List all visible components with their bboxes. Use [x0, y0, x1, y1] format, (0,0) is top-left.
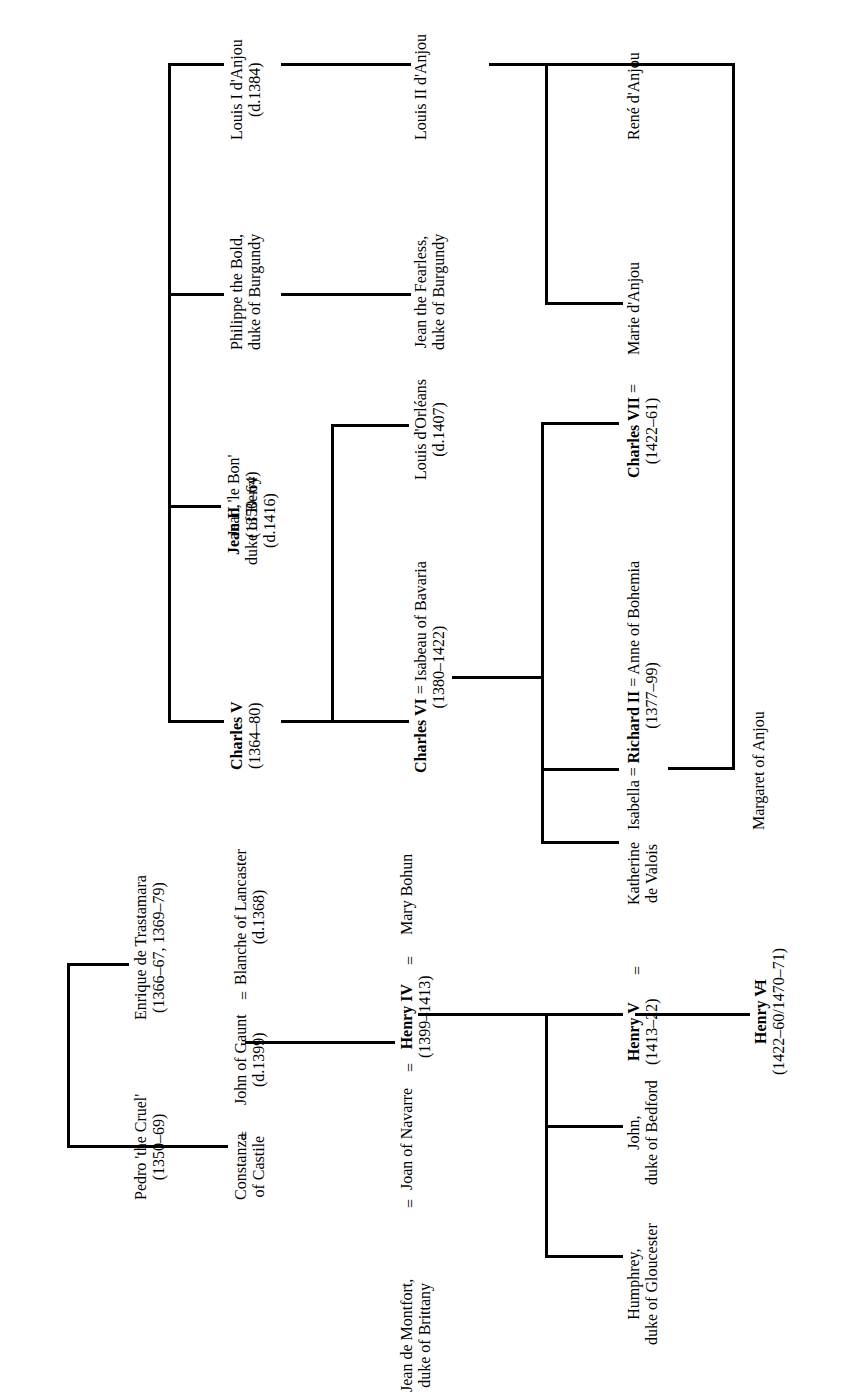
jean-berry-line1: Jean,	[225, 476, 243, 565]
line-louis2-stub	[489, 63, 547, 66]
charles6-dates: (1380–1422)	[430, 561, 448, 773]
henry5-dates: (1413–22)	[643, 998, 661, 1065]
richard2-prefix: Isabella =	[625, 763, 642, 830]
node-jean-berry: Jean, duke of Berry (d.1416)	[225, 476, 279, 565]
node-katherine: Katherine de Valois	[625, 842, 661, 905]
charles5-dates: (1364–80)	[246, 701, 264, 770]
katherine-line2: de Valois	[643, 842, 661, 905]
node-charles5: Charles V (1364–80)	[228, 701, 264, 770]
eq-henry6: =	[752, 981, 770, 990]
richard2-spouse: Anne of Bohemia	[625, 561, 642, 675]
node-enrique: Enrique de Trastamara (1366–67, 1369–79)	[132, 875, 168, 1020]
line-to-jean-berry	[168, 505, 221, 508]
humphrey-line1: Humphrey,	[625, 1223, 643, 1345]
node-philippe: Philippe the Bold, duke of Burgundy	[228, 234, 264, 350]
henry4-name: Henry IV	[398, 984, 415, 1049]
node-louis-orleans: Louis d'Orléans (d.1407)	[412, 379, 448, 480]
humphrey-line2: duke of Gloucester	[643, 1223, 661, 1345]
margaret-name: Margaret of Anjou	[750, 711, 768, 830]
line-to-louis-orleans	[331, 424, 409, 427]
richard2-name: Richard II	[625, 691, 642, 763]
joan-name: Joan of Navarre	[398, 1088, 416, 1190]
line-to-enrique	[67, 963, 129, 966]
line-to-louis1	[168, 63, 224, 66]
charles7-dates: (1422–61)	[643, 384, 661, 478]
line-henry4-children-bus	[545, 1013, 548, 1258]
jean-fearless-line2: duke of Burgundy	[430, 234, 448, 350]
louis1-name: Louis I d'Anjou	[228, 39, 246, 140]
node-rene: René d'Anjou	[625, 52, 643, 140]
line-charles5-children-bus	[331, 424, 334, 723]
jean-fearless-line1: Jean the Fearless,	[412, 234, 430, 350]
marriage-eq-henry4-mary: =	[402, 956, 420, 965]
eq-montfort: =	[402, 1199, 420, 1208]
enrique-name: Enrique de Trastamara	[132, 875, 150, 1020]
node-jean-montfort: Jean de Montfort, duke of Brittany	[398, 1279, 434, 1392]
line-castile-bus	[67, 963, 70, 1147]
constanza-line2: of Castile	[250, 1133, 268, 1200]
node-pedro: Pedro 'the Cruel' (1350–69)	[132, 1094, 168, 1200]
node-henry5: Henry V (1413–22)	[625, 998, 661, 1065]
constanza-line1: Constanza	[232, 1133, 250, 1200]
marriage-eq-constanza-gaunt: =	[236, 1131, 254, 1140]
pedro-dates: (1350–69)	[150, 1094, 168, 1200]
line-philippe-to-jean-fearless	[281, 293, 411, 296]
line-jean2-children-bus	[168, 63, 171, 723]
line-to-henry5	[545, 1013, 623, 1016]
node-charles6: Charles VI = Isabeau of Bavaria (1380–14…	[412, 561, 448, 773]
rene-name: René d'Anjou	[625, 52, 643, 140]
charles6-spouse: Isabeau of Bavaria	[412, 561, 429, 681]
mary-bohun-name: Mary Bohun	[398, 854, 416, 935]
node-marie: Marie d'Anjou	[625, 262, 643, 355]
node-richard2: Isabella = Richard II = Anne of Bohemia …	[625, 561, 661, 830]
philippe-line2: duke of Burgundy	[246, 234, 264, 350]
node-louis1: Louis I d'Anjou (d.1384)	[228, 39, 264, 140]
charles6-eq: =	[412, 681, 429, 698]
bedford-line2: duke of Bedford	[643, 1080, 661, 1185]
henry4-dates: (1399–1413)	[416, 975, 434, 1058]
pedro-name: Pedro 'the Cruel'	[132, 1094, 150, 1200]
montfort-line2: duke of Brittany	[416, 1279, 434, 1392]
enrique-dates: (1366–67, 1369–79)	[150, 875, 168, 1020]
louis1-dates: (d.1384)	[246, 39, 264, 140]
node-john-bedford: John, duke of Bedford	[625, 1080, 661, 1185]
line-anjou-children-bus	[545, 63, 548, 303]
marriage-eq-henry6-margaret: =	[752, 981, 770, 990]
marriage-eq-henry5-katherine: =	[629, 966, 647, 975]
louis-orleans-dates: (d.1407)	[430, 379, 448, 480]
node-louis2: Louis II d'Anjou	[412, 34, 430, 140]
line-charles6-stub	[452, 676, 544, 679]
node-margaret: Margaret of Anjou	[750, 711, 768, 830]
node-john-gaunt: John of Gaunt (d.1399)	[232, 1014, 268, 1105]
gaunt-name: John of Gaunt	[232, 1014, 250, 1105]
node-blanche: Blanche of Lancaster (d.1368)	[232, 849, 268, 985]
node-constanza: Constanza of Castile	[232, 1133, 268, 1200]
eq-henry4: =	[402, 956, 420, 965]
line-to-humphrey	[545, 1255, 623, 1258]
louis2-name: Louis II d'Anjou	[412, 34, 430, 140]
eq-joan: =	[402, 1063, 420, 1072]
line-to-katherine	[541, 841, 619, 844]
line-to-charles7	[541, 422, 619, 425]
line-to-john-bedford	[545, 1125, 623, 1128]
charles7-name: Charles VII	[625, 397, 642, 478]
montfort-line1: Jean de Montfort,	[398, 1279, 416, 1392]
richard2-eq: =	[625, 675, 642, 691]
richard2-dates: (1377–99)	[643, 561, 661, 830]
marriage-eq-joan-henry4: =	[402, 1063, 420, 1072]
node-henry4: Henry IV (1399–1413)	[398, 975, 434, 1058]
charles7-eq: =	[625, 384, 642, 397]
line-to-rene	[545, 63, 623, 66]
node-joan-navarre: Joan of Navarre	[398, 1088, 416, 1190]
line-rene-descent-vertical	[732, 63, 735, 770]
katherine-line1: Katherine	[625, 842, 643, 905]
eq-henry5: =	[629, 966, 647, 975]
line-to-philippe	[168, 293, 224, 296]
node-humphrey: Humphrey, duke of Gloucester	[625, 1223, 661, 1345]
node-charles7: Charles VII = (1422–61)	[625, 384, 661, 478]
philippe-line1: Philippe the Bold,	[228, 234, 246, 350]
line-to-marie	[545, 302, 623, 305]
henry6-dates: (1422–60/1470–71)	[770, 948, 788, 1075]
jean-berry-dates: (d.1416)	[261, 476, 279, 565]
genealogy-chart: Jean II 'le Bon' (1350–64) Louis I d'Anj…	[0, 0, 860, 1398]
